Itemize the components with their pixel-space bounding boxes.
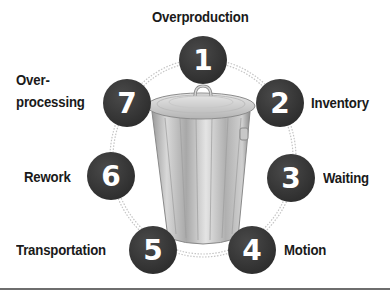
step-number: 1 bbox=[193, 44, 212, 77]
step-number: 5 bbox=[143, 234, 162, 267]
label-waiting: Waiting bbox=[323, 169, 369, 186]
step-circle-7: 7 bbox=[103, 79, 151, 127]
bottom-divider bbox=[0, 288, 390, 290]
label-overproduction: Overproduction bbox=[152, 8, 249, 25]
label-overprocessing-line1: Over- bbox=[16, 71, 50, 88]
label-motion: Motion bbox=[284, 241, 326, 258]
trash-can-icon bbox=[147, 86, 255, 244]
step-number: 6 bbox=[101, 160, 120, 193]
step-circle-2: 2 bbox=[256, 79, 304, 127]
step-number: 2 bbox=[270, 87, 289, 120]
step-number: 4 bbox=[242, 234, 261, 267]
label-rework: Rework bbox=[24, 168, 71, 185]
label-inventory: Inventory bbox=[311, 94, 369, 111]
step-circle-5: 5 bbox=[129, 226, 177, 274]
step-circle-4: 4 bbox=[228, 226, 276, 274]
label-overprocessing-line2: processing bbox=[16, 93, 85, 110]
step-circle-6: 6 bbox=[87, 152, 135, 200]
step-number: 7 bbox=[117, 87, 136, 120]
step-circle-1: 1 bbox=[179, 36, 227, 84]
label-transportation: Transportation bbox=[16, 241, 106, 258]
step-circle-3: 3 bbox=[267, 154, 315, 202]
step-number: 3 bbox=[281, 162, 300, 195]
